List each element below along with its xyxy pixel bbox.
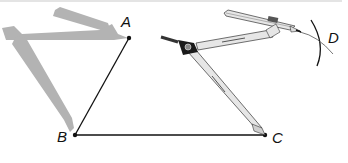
- arc-d: [311, 20, 320, 66]
- segment-ab: [75, 38, 129, 135]
- compass: [161, 10, 301, 135]
- label-c: C: [272, 129, 283, 146]
- point-a: [127, 36, 131, 40]
- label-d: D: [328, 29, 339, 46]
- ghost-compass: [2, 7, 128, 132]
- compass-construction-diagram: A B C D: [0, 0, 348, 163]
- label-a: A: [120, 13, 131, 30]
- label-b: B: [57, 128, 67, 145]
- point-b: [73, 133, 77, 137]
